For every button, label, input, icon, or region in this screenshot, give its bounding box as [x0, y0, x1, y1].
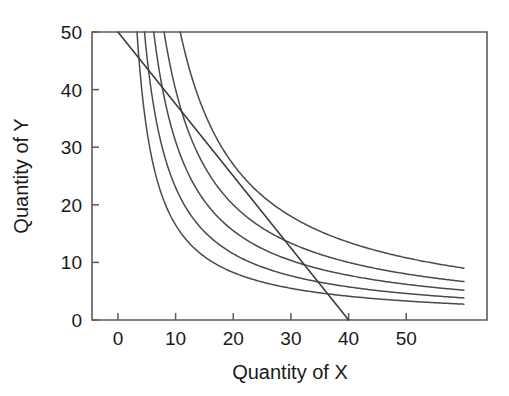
y-tick-label-40: 40 [61, 80, 82, 101]
chart-canvas: 01020304050 01020304050 Quantity of X Qu… [0, 0, 509, 396]
x-tick-label-50: 50 [396, 328, 417, 349]
y-tick-label-0: 0 [71, 310, 82, 331]
x-tick-label-20: 20 [223, 328, 244, 349]
indifference-curve-chart: 01020304050 01020304050 Quantity of X Qu… [0, 0, 509, 396]
x-tick-label-0: 0 [113, 328, 124, 349]
y-tick-label-10: 10 [61, 252, 82, 273]
y-tick-label-20: 20 [61, 195, 82, 216]
x-axis-title: Quantity of X [232, 361, 348, 383]
x-tick-label-40: 40 [338, 328, 359, 349]
x-tick-label-30: 30 [280, 328, 301, 349]
y-axis-title: Quantity of Y [10, 118, 32, 233]
y-tick-label-30: 30 [61, 137, 82, 158]
y-tick-label-50: 50 [61, 22, 82, 43]
x-tick-label-10: 10 [165, 328, 186, 349]
